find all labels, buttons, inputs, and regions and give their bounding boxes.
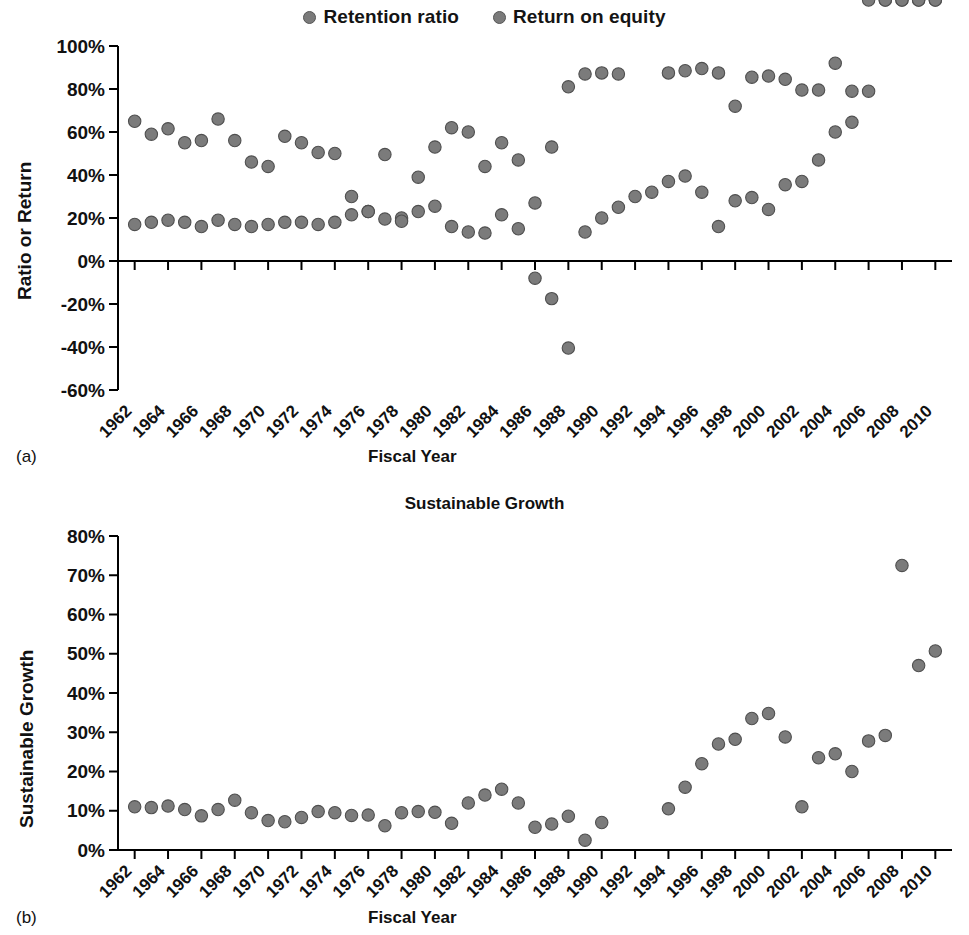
data-point — [612, 68, 624, 80]
data-point — [279, 816, 291, 828]
data-point — [829, 57, 841, 69]
data-point — [229, 794, 241, 806]
data-point — [345, 809, 357, 821]
data-point — [128, 115, 140, 127]
x-tick-label: 2002 — [763, 401, 803, 441]
data-point — [796, 84, 808, 96]
y-tick-label: 0% — [78, 251, 106, 272]
x-tick-label: 1994 — [629, 861, 670, 902]
data-point — [846, 765, 858, 777]
data-point — [362, 809, 374, 821]
data-point — [712, 220, 724, 232]
y-axis-title-a: Ratio or Return — [14, 162, 36, 300]
data-point — [696, 62, 708, 74]
data-point — [529, 272, 541, 284]
data-point — [262, 814, 274, 826]
data-point — [662, 175, 674, 187]
y-tick-label: 100% — [56, 36, 105, 57]
data-point — [679, 781, 691, 793]
data-point — [545, 292, 557, 304]
x-tick-label: 1988 — [529, 401, 569, 441]
x-tick-label: 1996 — [662, 861, 702, 901]
data-point — [429, 806, 441, 818]
data-point — [829, 748, 841, 760]
x-axis-title-a: Fiscal Year — [368, 447, 457, 467]
x-tick-label: 1974 — [295, 861, 336, 902]
data-point — [495, 209, 507, 221]
data-point — [729, 195, 741, 207]
data-point — [579, 226, 591, 238]
data-point — [462, 126, 474, 138]
data-point — [846, 85, 858, 97]
data-point — [696, 757, 708, 769]
data-point — [812, 84, 824, 96]
x-tick-label: 1976 — [329, 861, 369, 901]
y-tick-label: 40% — [67, 165, 105, 186]
data-point — [179, 137, 191, 149]
y-tick-label: 60% — [67, 122, 105, 143]
data-point — [562, 810, 574, 822]
y-tick-label: -20% — [61, 294, 105, 315]
data-point — [879, 729, 891, 741]
data-point — [295, 811, 307, 823]
y-tick-label: -40% — [61, 337, 105, 358]
data-point — [229, 218, 241, 230]
data-point — [562, 81, 574, 93]
data-point — [312, 218, 324, 230]
data-point — [662, 67, 674, 79]
data-point — [796, 801, 808, 813]
x-tick-label: 1986 — [496, 401, 536, 441]
data-point — [329, 807, 341, 819]
x-tick-label: 1964 — [129, 401, 170, 442]
data-point — [195, 810, 207, 822]
x-tick-label: 1962 — [95, 401, 135, 441]
x-tick-label: 1964 — [129, 861, 170, 902]
x-tick-label: 1992 — [596, 861, 636, 901]
data-point — [779, 178, 791, 190]
data-point — [295, 216, 307, 228]
data-point — [345, 190, 357, 202]
data-point — [212, 214, 224, 226]
x-tick-label: 2002 — [763, 861, 803, 901]
x-tick-label: 1968 — [195, 861, 235, 901]
x-tick-label: 1998 — [696, 861, 736, 901]
data-point — [579, 68, 591, 80]
x-tick-label: 1978 — [362, 401, 402, 441]
data-point — [162, 800, 174, 812]
series-sustainable-growth — [128, 559, 941, 846]
data-point — [679, 170, 691, 182]
data-point — [445, 817, 457, 829]
panel-a-ratio-or-return: Retention ratio Return on equity 100%80%… — [0, 0, 969, 478]
data-point — [862, 735, 874, 747]
x-tick-label: 1976 — [329, 401, 369, 441]
x-tick-label: 1970 — [229, 401, 269, 441]
series-retention-ratio — [128, 0, 941, 224]
data-point — [879, 0, 891, 6]
x-tick-label: 1992 — [596, 401, 636, 441]
data-point — [162, 214, 174, 226]
data-point — [395, 807, 407, 819]
data-point — [245, 220, 257, 232]
data-point — [162, 123, 174, 135]
data-point — [779, 731, 791, 743]
data-point — [479, 227, 491, 239]
data-point — [545, 141, 557, 153]
data-point — [579, 834, 591, 846]
data-point — [128, 801, 140, 813]
panel-b-sustainable-growth: Sustainable Growth 80%70%60%50%40%30%20%… — [0, 478, 969, 935]
data-point — [245, 156, 257, 168]
data-point — [929, 645, 941, 657]
x-tick-label: 2008 — [863, 401, 903, 441]
data-point — [429, 200, 441, 212]
data-point — [429, 141, 441, 153]
y-tick-label: 30% — [67, 722, 105, 743]
y-tick-label: 50% — [67, 643, 105, 664]
data-point — [262, 160, 274, 172]
data-point — [529, 821, 541, 833]
x-tick-label: 1988 — [529, 861, 569, 901]
x-tick-label: 1986 — [496, 861, 536, 901]
data-point — [545, 818, 557, 830]
data-point — [512, 797, 524, 809]
data-point — [646, 186, 658, 198]
data-point — [746, 712, 758, 724]
